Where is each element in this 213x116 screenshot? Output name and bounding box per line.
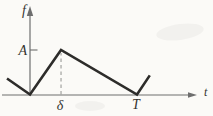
x-axis-arrowhead-icon [188, 92, 197, 98]
waveform-figure: f A δ T t [0, 0, 213, 116]
scan-smudge-bottom [75, 101, 105, 111]
amplitude-tick-label: A [17, 43, 27, 58]
scan-smudge-top-right [155, 21, 205, 44]
y-axis-arrowhead-icon [27, 6, 33, 16]
delta-tick-label: δ [57, 98, 64, 113]
period-tick-label: T [132, 97, 141, 112]
waveform-polyline [7, 50, 150, 95]
x-axis-label: t [204, 85, 208, 99]
waveform-plot: f A δ T t [0, 0, 213, 116]
